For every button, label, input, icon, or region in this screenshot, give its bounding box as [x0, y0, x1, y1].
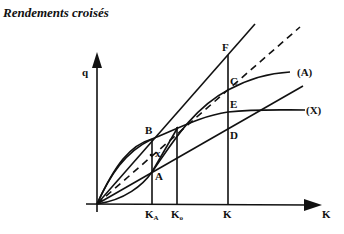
x-point-marker [150, 154, 153, 157]
line-OF [97, 24, 255, 204]
point-B: B [145, 124, 153, 136]
curve-X-label: (X) [306, 104, 322, 117]
point-E: E [230, 98, 237, 110]
dashed-line [97, 27, 300, 204]
x-axis-label: K [322, 208, 331, 220]
tick-K0: Ko [171, 208, 184, 222]
point-x: x [155, 147, 161, 159]
x-axis-arrow-icon [304, 199, 322, 211]
point-A: A [155, 170, 163, 182]
curve-A [97, 72, 290, 204]
diagram-canvas: q K F C E D B A x (A) (X) KA Ko K [0, 0, 344, 234]
y-axis-arrow-icon [92, 52, 102, 68]
curve-A-label: (A) [297, 66, 313, 79]
point-F: F [222, 41, 229, 53]
x-axis [86, 204, 310, 205]
y-axis-label: q [82, 66, 89, 78]
point-C: C [230, 75, 238, 87]
tick-K: K [223, 208, 232, 220]
tick-KA: KA [145, 208, 159, 222]
curve-X [97, 110, 305, 204]
point-D: D [230, 129, 238, 141]
line-OD [97, 86, 303, 204]
